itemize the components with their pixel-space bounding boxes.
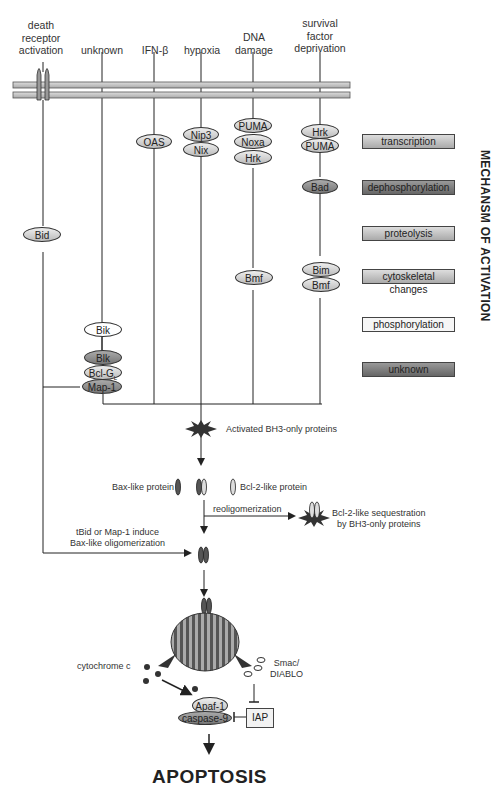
- activated-bh3-star-icon: [185, 420, 217, 438]
- protein-bmf-survival: Bmf: [302, 277, 340, 292]
- note-sequestration: Bcl-2-like sequestration by BH3-only pro…: [332, 508, 426, 530]
- protein-bim: Bim: [302, 262, 340, 277]
- protein-caspase-9: caspase-9: [178, 711, 232, 725]
- protein-noxa: Noxa: [234, 134, 272, 149]
- protein-bmf-dna: Bmf: [235, 270, 273, 285]
- protein-oas: OAS: [136, 134, 172, 149]
- mitochondrion-icon: [171, 613, 239, 671]
- protein-map-1: Map-1: [82, 379, 122, 394]
- mechanism-proteolysis: proteolysis: [362, 226, 455, 241]
- protein-puma-survival: PUMA: [301, 138, 339, 153]
- protein-iap-box: IAP: [246, 708, 274, 728]
- mechanism-title: MECHANSM OF ACTIVATION: [478, 150, 492, 322]
- note-reoligomerization: reoligomerization: [213, 504, 282, 515]
- protein-bcl-g: Bcl-GL: [84, 365, 122, 380]
- note-bcl2-like: Bcl-2-like protein: [240, 482, 307, 493]
- protein-hrk-survival: Hrk: [301, 124, 339, 139]
- mechanism-transcription: transcription: [362, 134, 455, 149]
- note-bax-like: Bax-like protein: [112, 482, 174, 493]
- mechanism-unknown: unknown: [362, 362, 455, 377]
- note-smac-diablo: Smac/ DIABLO: [270, 658, 303, 680]
- protein-nip3: Nip3: [183, 127, 219, 142]
- protein-bad: Bad: [302, 179, 338, 194]
- bcl-g-label: Bcl-G: [89, 368, 114, 379]
- note-cytochrome-c: cytochrome c: [77, 661, 131, 672]
- protein-bid: Bid: [23, 227, 61, 242]
- protein-bik: Bik: [84, 322, 122, 337]
- note-activated-bh3: Activated BH3-only proteins: [226, 424, 337, 435]
- note-tbid: tBid or Map-1 induce Bax-like oligomeriz…: [70, 527, 165, 549]
- mechanism-dephosphorylation: dephosphorylation: [362, 180, 455, 195]
- outcome-apoptosis: APOPTOSIS: [152, 766, 267, 788]
- protein-hrk-dna: Hrk: [234, 150, 272, 165]
- protein-blk: Blk: [84, 350, 122, 365]
- protein-puma-dna: PUMA: [234, 118, 272, 133]
- mechanism-cytoskeletal: cytoskeletal changes: [362, 269, 455, 284]
- protein-nix: Nix: [183, 142, 219, 157]
- mechanism-phosphorylation: phosphorylation: [362, 317, 455, 332]
